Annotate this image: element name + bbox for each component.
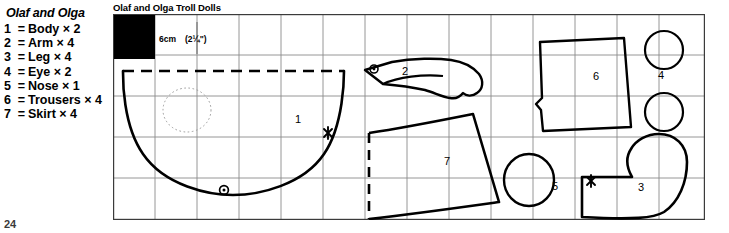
- legend-item-number: 4: [4, 65, 15, 79]
- piece-label-3: 3: [638, 181, 644, 193]
- legend-item-6: 6 = Trousers × 4: [4, 93, 108, 107]
- piece-1-guide-circle: [163, 88, 211, 132]
- legend-item-2: 2 = Arm × 4: [4, 36, 108, 50]
- piece-label-7: 7: [444, 155, 450, 167]
- piece-5-outline: [504, 154, 554, 206]
- legend-item-number: 5: [4, 79, 15, 93]
- legend-item-number: 6: [4, 93, 15, 107]
- legend-item-label: Leg × 4: [28, 50, 71, 64]
- pattern-piece-7-skirt: [369, 114, 499, 219]
- legend-item-equals: =: [15, 50, 28, 64]
- pattern-diagram-svg: [113, 14, 705, 220]
- legend-item-label: Eye × 2: [28, 65, 71, 79]
- piece-3-outline: [582, 134, 687, 218]
- legend-item-number: 7: [4, 107, 15, 121]
- legend-item-1: 1 = Body × 2: [4, 22, 108, 36]
- legend-item-equals: =: [15, 93, 28, 107]
- piece-label-4: 4: [658, 69, 664, 81]
- legend-item-equals: =: [15, 36, 28, 50]
- pattern-piece-3-leg: [582, 134, 687, 218]
- scale-metric: 6cm: [159, 34, 176, 44]
- piece-7-outline: [369, 114, 499, 219]
- legend-item-equals: =: [15, 22, 28, 36]
- legend-item-7: 7 = Skirt × 4: [4, 107, 108, 121]
- legend-item-label: Trousers × 4: [28, 93, 102, 107]
- scale-label: 6cm(2¼"): [159, 34, 207, 44]
- grid-border: [114, 15, 705, 220]
- piece-4-eye-upper: [645, 31, 683, 69]
- pattern-piece-1-body: [123, 71, 344, 195]
- piece-2-inner-curve: [383, 75, 443, 84]
- piece-2-outline: [365, 59, 482, 99]
- legend-item-label: Skirt × 4: [28, 107, 77, 121]
- piece-label-1: 1: [295, 113, 301, 125]
- legend-item-equals: =: [15, 65, 28, 79]
- scale-imperial: (2¼"): [185, 34, 207, 44]
- pattern-piece-5-nose: [504, 154, 554, 206]
- legend: Olaf and Olga 1 = Body × 2 2 = Arm × 4 3…: [4, 6, 108, 121]
- legend-title: Olaf and Olga: [6, 6, 108, 20]
- pattern-panel: Olaf and Olga Troll Dolls: [110, 2, 710, 224]
- legend-item-5: 5 = Nose × 1: [4, 79, 108, 93]
- legend-item-label: Body × 2: [28, 22, 80, 36]
- legend-item-number: 3: [4, 50, 15, 64]
- legend-item-label: Nose × 1: [28, 79, 80, 93]
- legend-item-label: Arm × 4: [28, 36, 74, 50]
- legend-item-equals: =: [15, 79, 28, 93]
- legend-item-number: 2: [4, 36, 15, 50]
- pattern-piece-4-eyes: [645, 31, 683, 131]
- legend-item-3: 3 = Leg × 4: [4, 50, 108, 64]
- piece-4-eye-lower: [645, 93, 683, 131]
- grid-lines: [113, 14, 705, 220]
- legend-item-number: 1: [4, 22, 15, 36]
- piece-label-2: 2: [402, 65, 408, 77]
- legend-item-4: 4 = Eye × 2: [4, 65, 108, 79]
- piece-label-6: 6: [593, 70, 599, 82]
- panel-title: Olaf and Olga Troll Dolls: [113, 2, 221, 13]
- page-number: 24: [4, 218, 16, 230]
- legend-item-equals: =: [15, 107, 28, 121]
- scale-swatch: [114, 15, 155, 59]
- piece-1-outline: [123, 71, 344, 195]
- piece-label-5: 5: [552, 180, 558, 192]
- piece-1-pivot-marker: [220, 186, 229, 195]
- pattern-grid: 6cm(2¼") 1 2 3 4 5 6 7: [113, 14, 705, 220]
- pattern-piece-2-arm: [365, 59, 482, 99]
